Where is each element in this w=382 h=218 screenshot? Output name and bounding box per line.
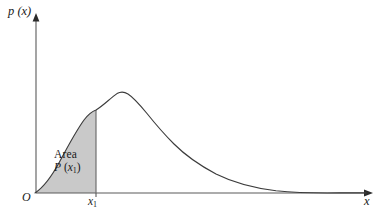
shaded-area-label-paren-open: ( [61,161,68,173]
shaded-area-label-paren-close: ) [77,161,81,173]
shaded-area-label-line2: P (x1) [54,161,81,175]
shaded-area-label: Area P (x1) [54,148,81,175]
probability-density-figure: p (x) x O x1 Area P (x1) [0,0,382,218]
y-axis-arrowhead [33,13,40,22]
x-axis-label: x [364,195,370,208]
shaded-area-label-line1: Area [54,148,81,160]
x-tick-label-x1: x1 [88,195,97,209]
y-axis-label: p (x) [8,5,31,18]
x-tick-label-subscript: 1 [93,200,97,209]
plot-canvas [0,0,382,218]
origin-label: O [22,191,31,204]
shaded-area-label-P: P [54,161,61,173]
